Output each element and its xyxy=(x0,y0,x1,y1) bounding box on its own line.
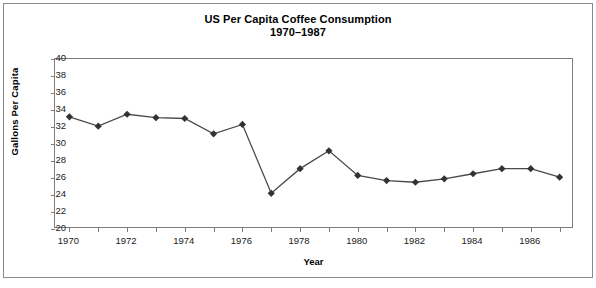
series-line-coffee-consumption xyxy=(55,59,574,229)
x-axis-tick-mark xyxy=(185,227,186,232)
y-axis-tick-label: 34 xyxy=(40,104,66,114)
x-axis-tick-mark xyxy=(214,227,215,232)
x-axis-tick-mark xyxy=(415,227,416,232)
y-axis-tick-label: 22 xyxy=(40,206,66,216)
x-axis-tick-mark xyxy=(560,227,561,232)
chart-figure: US Per Capita Coffee Consumption 1970–19… xyxy=(0,0,596,288)
x-axis-tick-mark xyxy=(156,227,157,232)
y-axis-tick-label: 36 xyxy=(40,87,66,97)
x-axis-tick-mark xyxy=(271,227,272,232)
chart-title: US Per Capita Coffee Consumption 1970–19… xyxy=(0,13,596,39)
x-axis-tick-label: 1978 xyxy=(279,235,319,246)
x-axis-tick-mark xyxy=(473,227,474,232)
data-point-marker xyxy=(95,123,102,130)
x-axis-tick-mark xyxy=(242,227,243,232)
data-point-marker xyxy=(556,174,563,181)
x-axis-tick-mark xyxy=(444,227,445,232)
x-axis-tick-label: 1974 xyxy=(164,235,204,246)
y-axis-tick-label: 30 xyxy=(40,138,66,148)
y-axis-tick-label: 24 xyxy=(40,189,66,199)
plot-area xyxy=(54,58,573,228)
x-axis-tick-label: 1976 xyxy=(221,235,261,246)
data-point-marker xyxy=(123,111,130,118)
x-axis-tick-mark xyxy=(502,227,503,232)
x-axis-tick-label: 1972 xyxy=(106,235,146,246)
data-point-marker xyxy=(152,114,159,121)
x-axis-tick-mark xyxy=(98,227,99,232)
data-point-marker xyxy=(239,121,246,128)
y-axis-tick-label: 32 xyxy=(40,121,66,131)
x-axis-tick-label: 1980 xyxy=(337,235,377,246)
y-axis-tick-label: 28 xyxy=(40,155,66,165)
x-axis-tick-mark xyxy=(387,227,388,232)
chart-title-line1: US Per Capita Coffee Consumption xyxy=(0,13,596,26)
data-point-marker xyxy=(181,115,188,122)
chart-title-line2: 1970–1987 xyxy=(0,26,596,39)
x-axis-tick-label: 1986 xyxy=(510,235,550,246)
x-axis-tick-label: 1970 xyxy=(48,235,88,246)
x-axis-tick-mark xyxy=(69,227,70,232)
data-point-marker xyxy=(527,165,534,172)
y-axis-tick-label: 26 xyxy=(40,172,66,182)
x-axis-tick-mark xyxy=(329,227,330,232)
data-point-marker xyxy=(412,179,419,186)
x-axis-tick-mark xyxy=(127,227,128,232)
x-axis-tick-label: 1984 xyxy=(452,235,492,246)
x-axis-tick-mark xyxy=(531,227,532,232)
data-point-marker xyxy=(469,170,476,177)
y-axis-tick-label: 38 xyxy=(40,70,66,80)
x-axis-tick-mark xyxy=(300,227,301,232)
data-point-marker xyxy=(441,175,448,182)
x-axis-tick-mark xyxy=(358,227,359,232)
y-axis-tick-label: 20 xyxy=(40,223,66,233)
x-axis-title: Year xyxy=(54,256,573,267)
data-point-marker xyxy=(498,165,505,172)
data-point-marker xyxy=(210,130,217,137)
y-axis-tick-label: 40 xyxy=(40,53,66,63)
data-point-marker xyxy=(66,113,73,120)
y-axis-title: Gallons Per Capita xyxy=(9,42,20,182)
x-axis-tick-label: 1982 xyxy=(394,235,434,246)
data-point-marker xyxy=(383,177,390,184)
data-line xyxy=(69,114,559,193)
